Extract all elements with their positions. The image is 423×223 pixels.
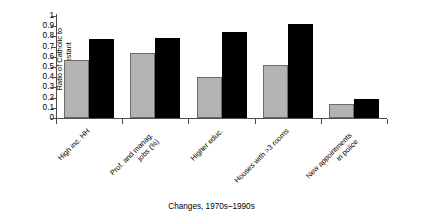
bar-3-series-2 xyxy=(222,32,247,118)
bar-3-series-1 xyxy=(197,77,222,118)
x-axis-title: Changes, 1970s–1990s xyxy=(0,202,423,211)
x-tick-mark xyxy=(321,119,322,124)
x-axis-line xyxy=(56,118,387,119)
bar-4-series-2 xyxy=(288,24,313,118)
x-tick-mark xyxy=(188,119,189,124)
bar-5-series-1 xyxy=(329,104,354,118)
plot-area xyxy=(56,16,387,118)
y-tick-mark xyxy=(51,108,56,109)
bar-5-series-2 xyxy=(354,99,379,118)
x-tick-mark xyxy=(56,119,57,124)
y-tick-mark xyxy=(51,47,56,48)
y-tick-mark xyxy=(51,16,56,17)
bar-chart: Ratio of Catholic to Protestant 00.10.20… xyxy=(0,0,423,223)
x-tick-mark xyxy=(122,119,123,124)
y-tick-mark xyxy=(51,57,56,58)
bar-1-series-2 xyxy=(89,39,114,118)
bar-4-series-1 xyxy=(263,65,288,118)
y-axis-tick-labels: 00.10.20.30.40.50.60.70.80.91 xyxy=(28,0,54,223)
y-tick-mark xyxy=(51,87,56,88)
x-tick-mark xyxy=(387,119,388,124)
y-tick-mark xyxy=(51,26,56,27)
y-tick-mark xyxy=(51,98,56,99)
bar-2-series-2 xyxy=(155,38,180,118)
bar-1-series-1 xyxy=(64,60,89,118)
y-tick-mark xyxy=(51,67,56,68)
y-tick-mark xyxy=(51,77,56,78)
x-tick-mark xyxy=(255,119,256,124)
y-tick-mark xyxy=(51,36,56,37)
bar-2-series-1 xyxy=(130,53,155,118)
